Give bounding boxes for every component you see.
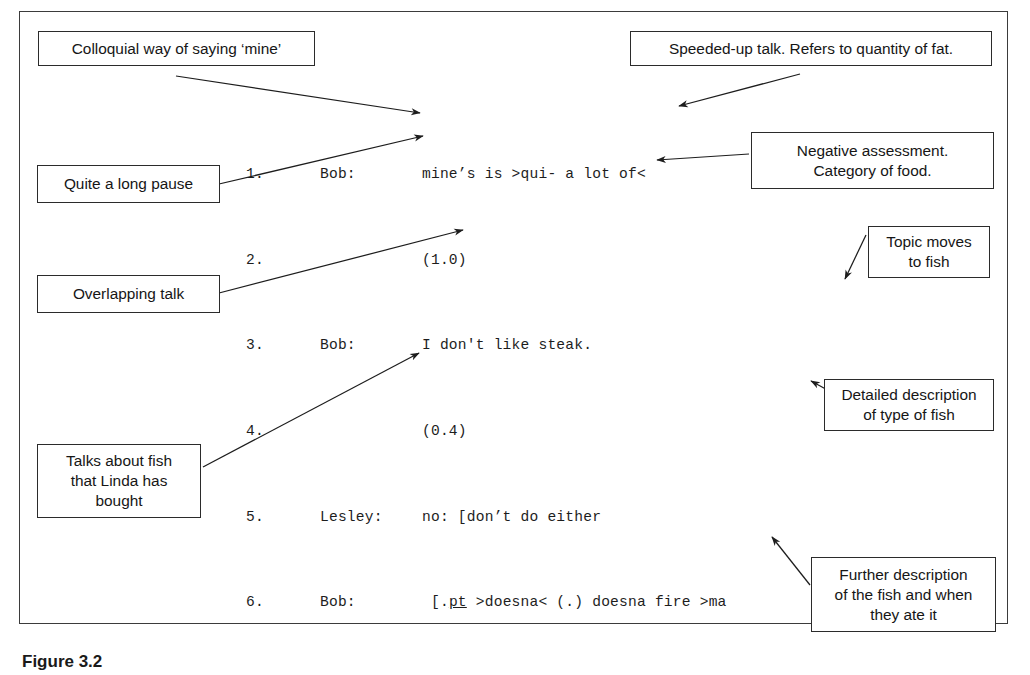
transcript-line: 2. (1.0): [246, 250, 780, 271]
utterance-text: (1.0): [422, 250, 467, 271]
callout-text-line-1: Negative assessment.: [759, 141, 986, 161]
figure-caption: Figure 3.2: [22, 652, 102, 672]
callout-text: Overlapping talk: [45, 284, 212, 304]
callout-overlapping-talk: Overlapping talk: [37, 275, 220, 313]
callout-text-line-3: they ate it: [819, 605, 988, 625]
speaker-label: Bob:: [320, 335, 422, 356]
utterance-text: mine’s is >qui- a lot of<: [422, 164, 646, 185]
transcript-line: 5. Lesley: no: [don’t do either: [246, 507, 780, 528]
callout-text-line-1: Further description: [819, 565, 988, 585]
callout-detailed-description: Detailed description of type of fish: [824, 379, 994, 431]
utterance-text: (0.4): [422, 421, 467, 442]
callout-negative-assessment: Negative assessment. Category of food.: [751, 132, 994, 189]
line-number: 5.: [246, 507, 320, 528]
utterance-text: [.pt >doesna< (.) doesna fire >ma: [422, 592, 727, 613]
callout-text-line-2: that Linda has: [45, 471, 193, 491]
transcript-line: 4. (0.4): [246, 421, 780, 442]
conversation-analysis-figure: 1. Bob: mine’s is >qui- a lot of< 2. (1.…: [0, 0, 1030, 675]
speaker-label: Lesley:: [320, 507, 422, 528]
callout-text: Colloquial way of saying ‘mine’: [46, 39, 307, 59]
callout-text-line-1: Topic moves: [876, 232, 982, 252]
speaker-label: Bob:: [320, 164, 422, 185]
callout-topic-moves-to-fish: Topic moves to fish: [868, 226, 990, 278]
line-number: 4.: [246, 421, 320, 442]
callout-text-line-2: of the fish and when: [819, 585, 988, 605]
callout-colloquial-mine: Colloquial way of saying ‘mine’: [38, 31, 315, 66]
speaker-label: Bob:: [320, 592, 422, 613]
line-number: 1.: [246, 164, 320, 185]
callout-text: Quite a long pause: [45, 174, 212, 194]
transcript-line: 3. Bob: I don't like steak.: [246, 335, 780, 356]
utterance-text: I don't like steak.: [422, 335, 592, 356]
callout-text-line-2: to fish: [876, 252, 982, 272]
callout-speeded-up-talk: Speeded-up talk. Refers to quantity of f…: [630, 31, 992, 66]
callout-text-line-1: Detailed description: [832, 385, 986, 405]
callout-further-description: Further description of the fish and when…: [811, 557, 996, 632]
line-number: 6.: [246, 592, 320, 613]
callout-long-pause: Quite a long pause: [37, 165, 220, 203]
callout-text-line-1: Talks about fish: [45, 451, 193, 471]
callout-text-line-2: of type of fish: [832, 405, 986, 425]
callout-talks-about-fish: Talks about fish that Linda has bought: [37, 444, 201, 518]
callout-text-line-2: Category of food.: [759, 161, 986, 181]
line-number: 3.: [246, 335, 320, 356]
transcript-block: 1. Bob: mine’s is >qui- a lot of< 2. (1.…: [246, 100, 780, 675]
line-number: 2.: [246, 250, 320, 271]
transcript-line: 1. Bob: mine’s is >qui- a lot of<: [246, 164, 780, 185]
utterance-text: no: [don’t do either: [422, 507, 601, 528]
callout-text: Speeded-up talk. Refers to quantity of f…: [638, 39, 984, 59]
transcript-line: 6. Bob: [.pt >doesna< (.) doesna fire >m…: [246, 592, 780, 613]
callout-text-line-3: bought: [45, 491, 193, 511]
